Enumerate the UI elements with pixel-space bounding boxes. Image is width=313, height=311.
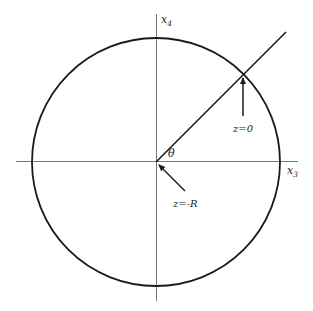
diagram-canvas: x4 x3 θ z=0 z=-R xyxy=(0,0,313,311)
angle-label-theta: θ xyxy=(168,147,175,160)
axis-label-x3: x3 xyxy=(287,164,298,179)
arrow-z-minus-r xyxy=(159,165,185,191)
label-z-minus-r: z=-R xyxy=(172,198,198,209)
label-z0: z=0 xyxy=(232,123,254,134)
ray-line xyxy=(156,32,286,162)
axis-label-x4: x4 xyxy=(161,13,172,28)
